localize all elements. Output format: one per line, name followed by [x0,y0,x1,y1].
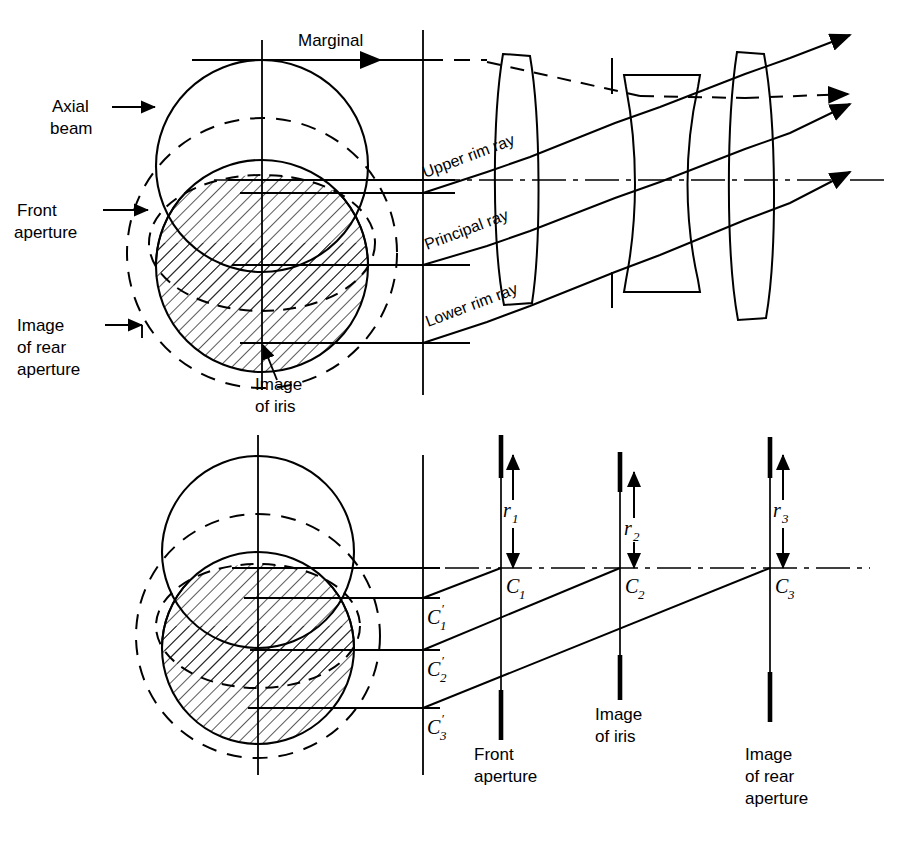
lens-group-top [495,52,774,320]
figure-canvas: Axial beam Front aperture Image of rear … [0,0,901,847]
image-of-iris-label-line1: Image [255,375,302,394]
lower-rim-ray-path [423,172,850,343]
c1-subscript: 1 [519,587,526,602]
c1-prime-subscript: 1 [440,618,447,633]
c3-prime-mark: ′ [441,711,444,726]
image-rear-aperture-label-line1: Image [17,316,64,335]
ray-c2p-to-c2 [423,568,620,650]
construction-rays-bottom [423,568,770,708]
c1-prime-mark: ′ [441,601,444,616]
image-of-iris-caption-line1: Image [595,705,642,724]
marginal-label: Marginal [298,31,363,50]
radius-dimensions [513,455,783,568]
beam-cross-section-top [127,40,397,390]
c2-prime-subscript: 2 [440,670,447,685]
c3-prime-label: C [427,716,441,738]
image-rear-aperture-label-line2: of rear [17,338,66,357]
c3-subscript: 3 [787,587,795,602]
front-aperture-label-line2: aperture [14,223,77,242]
image-of-rear-caption-line1: Image [745,745,792,764]
principal-ray-path [423,104,850,265]
c2-subscript: 2 [638,587,645,602]
beam-cross-section-bottom [136,435,380,775]
radius-labels: r 1 r 2 r 3 [503,499,789,544]
top-panel: Axial beam Front aperture Image of rear … [14,30,885,416]
c1-prime-label: C [427,606,441,628]
r2-subscript: 2 [633,529,640,544]
front-aperture-caption-line2: aperture [474,767,537,786]
front-aperture-label-line1: Front [17,201,57,220]
axial-beam-label-line1: Axial [52,97,89,116]
r3-label: r [773,499,781,521]
lens-2-biconcave [624,75,700,292]
ray-c1p-to-c1 [423,568,501,598]
r1-subscript: 1 [512,511,519,526]
ray-c3p-to-c3 [423,568,770,708]
plane-captions: Front aperture Image of iris Image of re… [474,705,808,808]
marginal-ray [192,60,848,98]
c1-label: C [506,575,520,597]
axial-beam-label-line2: beam [50,119,93,138]
r3-subscript: 3 [781,511,789,526]
c3-prime-subscript: 3 [439,728,447,743]
c2-prime-mark: ′ [441,653,444,668]
lens-3-biconvex [729,52,774,320]
image-rear-aperture-label-line3: aperture [17,360,80,379]
image-of-rear-caption-line3: aperture [745,789,808,808]
image-of-iris-label-line2: of iris [255,397,296,416]
bottom-panel: C 1 C 2 C 3 C 1 ′ C 2 ′ C 3 ′ r 1 r 2 r … [136,435,870,808]
upper-rim-ray-path [423,35,850,193]
optical-diagram-svg: Axial beam Front aperture Image of rear … [0,0,901,847]
image-of-iris-caption-line2: of iris [595,727,636,746]
image-of-rear-caption-line2: of rear [745,767,794,786]
c2-label: C [625,575,639,597]
r2-label: r [624,517,632,539]
front-aperture-caption-line1: Front [474,745,514,764]
upper-rim-ray-label: Upper rim ray [420,131,517,181]
c2-prime-label: C [427,658,441,680]
c3-label: C [775,575,789,597]
r1-label: r [503,499,511,521]
